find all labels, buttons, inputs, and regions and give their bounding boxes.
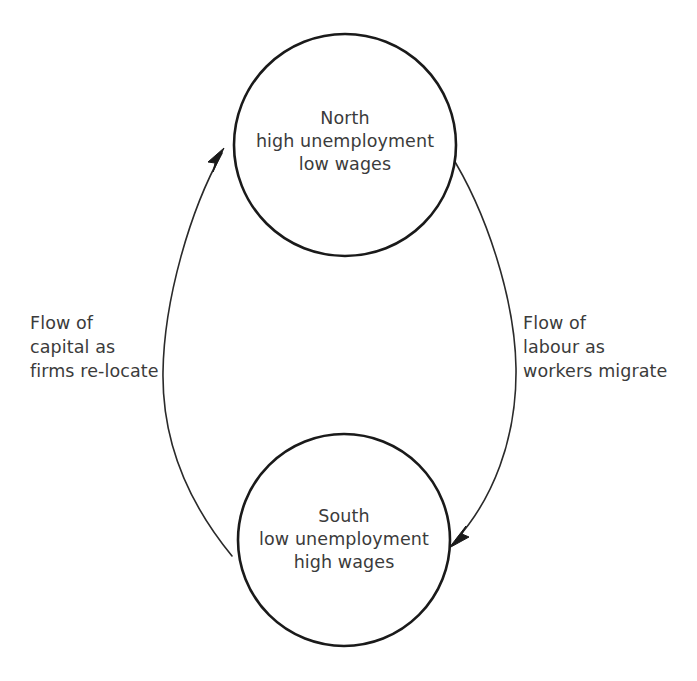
edge-capital-flow-arrowhead xyxy=(208,148,224,172)
diagram-canvas: North high unemployment low wages South … xyxy=(0,0,697,681)
node-south-line2: low unemployment xyxy=(259,529,429,549)
edge-capital-flow-label: Flow of capital as firms re-locate xyxy=(30,313,159,381)
edge-labour-flow-label: Flow of labour as workers migrate xyxy=(523,313,667,381)
node-north-line1: North xyxy=(320,108,369,128)
capital-label-line3: firms re-locate xyxy=(30,361,159,381)
node-south-line3: high wages xyxy=(294,552,395,572)
edge-capital-flow-path xyxy=(163,153,232,556)
node-south[interactable]: South low unemployment high wages xyxy=(238,434,450,646)
labour-label-line1: Flow of xyxy=(523,313,587,333)
edge-capital-flow xyxy=(163,148,232,556)
edge-labour-flow xyxy=(449,152,516,548)
flow-diagram-svg: North high unemployment low wages South … xyxy=(0,0,697,681)
labour-label-line3: workers migrate xyxy=(523,361,667,381)
node-north[interactable]: North high unemployment low wages xyxy=(234,34,456,256)
capital-label-line1: Flow of xyxy=(30,313,94,333)
edge-labour-flow-path xyxy=(449,152,516,540)
node-north-line3: low wages xyxy=(299,154,391,174)
node-north-line2: high unemployment xyxy=(256,131,434,151)
labour-label-line2: labour as xyxy=(523,337,605,357)
node-south-line1: South xyxy=(318,506,369,526)
capital-label-line2: capital as xyxy=(30,337,115,357)
